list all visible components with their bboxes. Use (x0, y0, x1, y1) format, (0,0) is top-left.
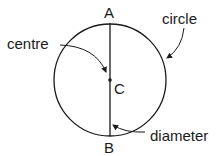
diameter-arrow (113, 125, 145, 132)
centre-label: centre (7, 35, 49, 52)
centre-arrow (60, 45, 106, 72)
point-c-label: C (114, 80, 125, 97)
point-a-label: A (104, 4, 114, 21)
point-b-label: B (104, 139, 114, 156)
circle-label: circle (162, 10, 197, 27)
circle-diagram: A B C circle centre diameter (0, 0, 218, 156)
centre-dot (108, 78, 112, 82)
circle-arrow (167, 28, 184, 58)
diameter-label: diameter (150, 127, 208, 144)
